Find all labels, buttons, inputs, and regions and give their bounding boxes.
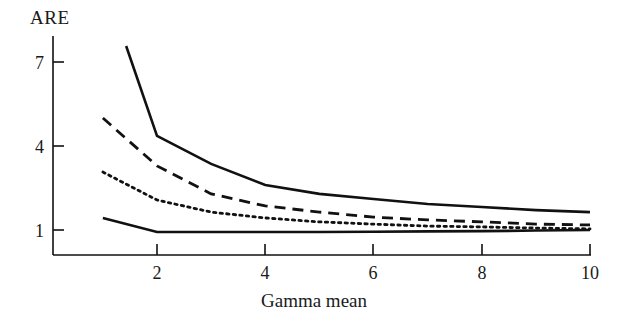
y-axis-label: ARE [30,8,70,27]
data-curves [103,46,590,232]
y-tick-label-1: 1 [18,222,44,240]
x-tick-label-4: 4 [248,264,282,282]
curve-solid-lower [103,218,590,232]
y-tick-label-4: 4 [18,138,44,156]
x-axis-label: Gamma mean [261,291,367,310]
y-tick-label-7: 7 [18,54,44,72]
x-tick-label-2: 2 [140,264,174,282]
x-tick-label-10: 10 [573,264,607,282]
x-axis-ticks [157,244,590,255]
chart-figure: ARE Gamma mean 7 4 1 2 4 6 8 10 [0,0,628,325]
y-axis-ticks [53,62,64,230]
curve-dotted [103,172,590,229]
x-tick-label-8: 8 [465,264,499,282]
plot-area [0,0,628,325]
x-tick-label-6: 6 [356,264,390,282]
